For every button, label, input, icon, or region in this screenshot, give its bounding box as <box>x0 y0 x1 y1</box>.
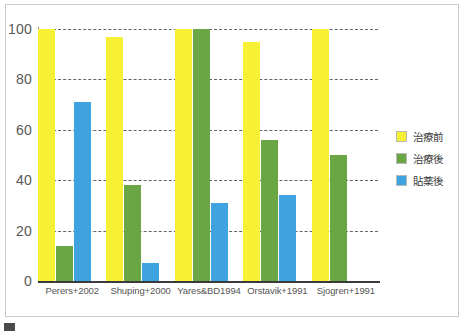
bar-shuping-patch <box>142 263 159 281</box>
legend-item-post: 治療後 <box>396 151 443 166</box>
legend: 治療前 治療後 貼薬後 <box>396 129 443 188</box>
bar-groups <box>38 29 380 281</box>
bar-perers-post <box>56 246 73 281</box>
bar-group-sjogren <box>312 29 380 281</box>
y-tick-40: 40 <box>16 172 32 188</box>
y-tick-100: 100 <box>8 21 32 37</box>
legend-item-pre: 治療前 <box>396 129 443 144</box>
bar-sjogren-pre <box>312 29 329 281</box>
x-label-orstavik: Orstavik+1991 <box>243 285 311 296</box>
bar-group-orstavik <box>243 29 311 281</box>
legend-swatch-icon-patch <box>396 175 407 186</box>
y-tick-80: 80 <box>16 71 32 87</box>
bar-perers-pre <box>38 29 55 281</box>
bar-group-yares <box>175 29 243 281</box>
bar-orstavik-patch <box>279 195 296 281</box>
caption-marker-icon <box>4 323 15 331</box>
legend-label-post: 治療後 <box>413 151 443 166</box>
x-axis-category-labels: Perers+2002 Shuping+2000 Yares&BD1994 Or… <box>38 285 380 296</box>
x-axis-line <box>38 281 380 283</box>
legend-item-patch: 貼薬後 <box>396 173 443 188</box>
bar-yares-pre <box>175 29 192 281</box>
legend-label-patch: 貼薬後 <box>413 173 443 188</box>
y-tick-20: 20 <box>16 223 32 239</box>
legend-swatch-icon-post <box>396 153 407 164</box>
bar-yares-patch <box>211 203 228 281</box>
bar-perers-patch <box>74 102 91 281</box>
bar-yares-post <box>193 29 210 281</box>
y-tick-0: 0 <box>24 273 32 289</box>
legend-label-pre: 治療前 <box>413 129 443 144</box>
bar-sjogren-post <box>330 155 347 281</box>
bar-orstavik-pre <box>243 42 260 281</box>
x-label-sjogren: Sjogren+1991 <box>312 285 380 296</box>
bar-group-shuping <box>106 29 174 281</box>
figure-caption <box>4 323 462 331</box>
x-label-yares: Yares&BD1994 <box>175 285 243 296</box>
bar-shuping-pre <box>106 37 123 281</box>
legend-swatch-icon-pre <box>396 131 407 142</box>
bar-orstavik-post <box>261 140 278 281</box>
x-label-shuping: Shuping+2000 <box>106 285 174 296</box>
bar-group-perers <box>38 29 106 281</box>
x-label-perers: Perers+2002 <box>38 285 106 296</box>
y-tick-60: 60 <box>16 122 32 138</box>
figure: 0 20 40 60 80 100 <box>0 0 466 331</box>
y-axis-tick-labels: 0 20 40 60 80 100 <box>0 29 32 281</box>
bar-shuping-post <box>124 185 141 281</box>
